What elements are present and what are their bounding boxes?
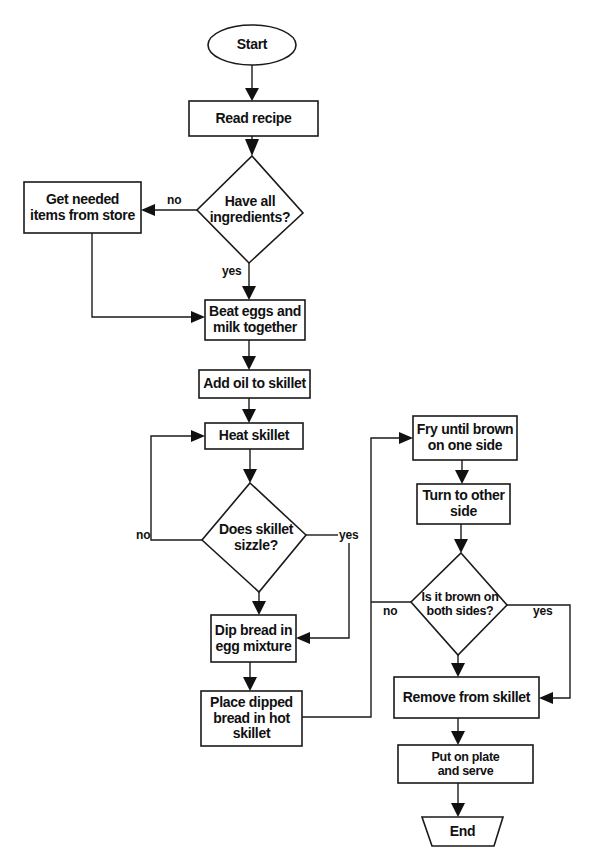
edge-label-brown-yes: yes: [533, 604, 552, 618]
remove-skillet-label: Remove from skillet: [394, 677, 539, 718]
add-oil-label: Add oil to skillet: [199, 370, 310, 398]
edge-label-sizzle-no: no: [136, 528, 150, 542]
end-label: End: [422, 817, 503, 846]
have-ingredients-label: Have all ingredients?: [200, 185, 300, 235]
edge-label-ingredients-no: no: [167, 193, 181, 207]
place-bread-label: Place dipped bread in hot skillet: [201, 691, 302, 746]
plate-serve-label: Put on plate and serve: [398, 745, 533, 783]
skillet-sizzle-label: Does skillet sizzle?: [206, 513, 306, 563]
dip-bread-label: Dip bread in egg mixture: [211, 615, 296, 662]
edge-label-brown-no: no: [383, 604, 397, 618]
brown-both-label: Is it brown on both sides?: [412, 582, 508, 626]
heat-skillet-label: Heat skillet: [205, 423, 303, 449]
beat-eggs-label: Beat eggs and milk together: [205, 300, 305, 340]
start-label: Start: [208, 25, 296, 65]
edge-label-ingredients-yes: yes: [222, 264, 241, 278]
read-recipe-label: Read recipe: [189, 101, 318, 136]
edge-label-sizzle-yes: yes: [339, 528, 358, 542]
fry-brown-label: Fry until brown on one side: [413, 416, 517, 460]
get-items-label: Get needed items from store: [24, 182, 141, 233]
turn-side-label: Turn to other side: [417, 484, 510, 524]
